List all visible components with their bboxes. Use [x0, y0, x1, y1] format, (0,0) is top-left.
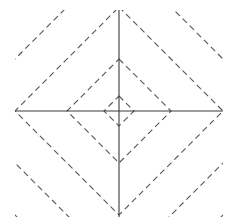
diagram-canvas	[0, 0, 237, 223]
